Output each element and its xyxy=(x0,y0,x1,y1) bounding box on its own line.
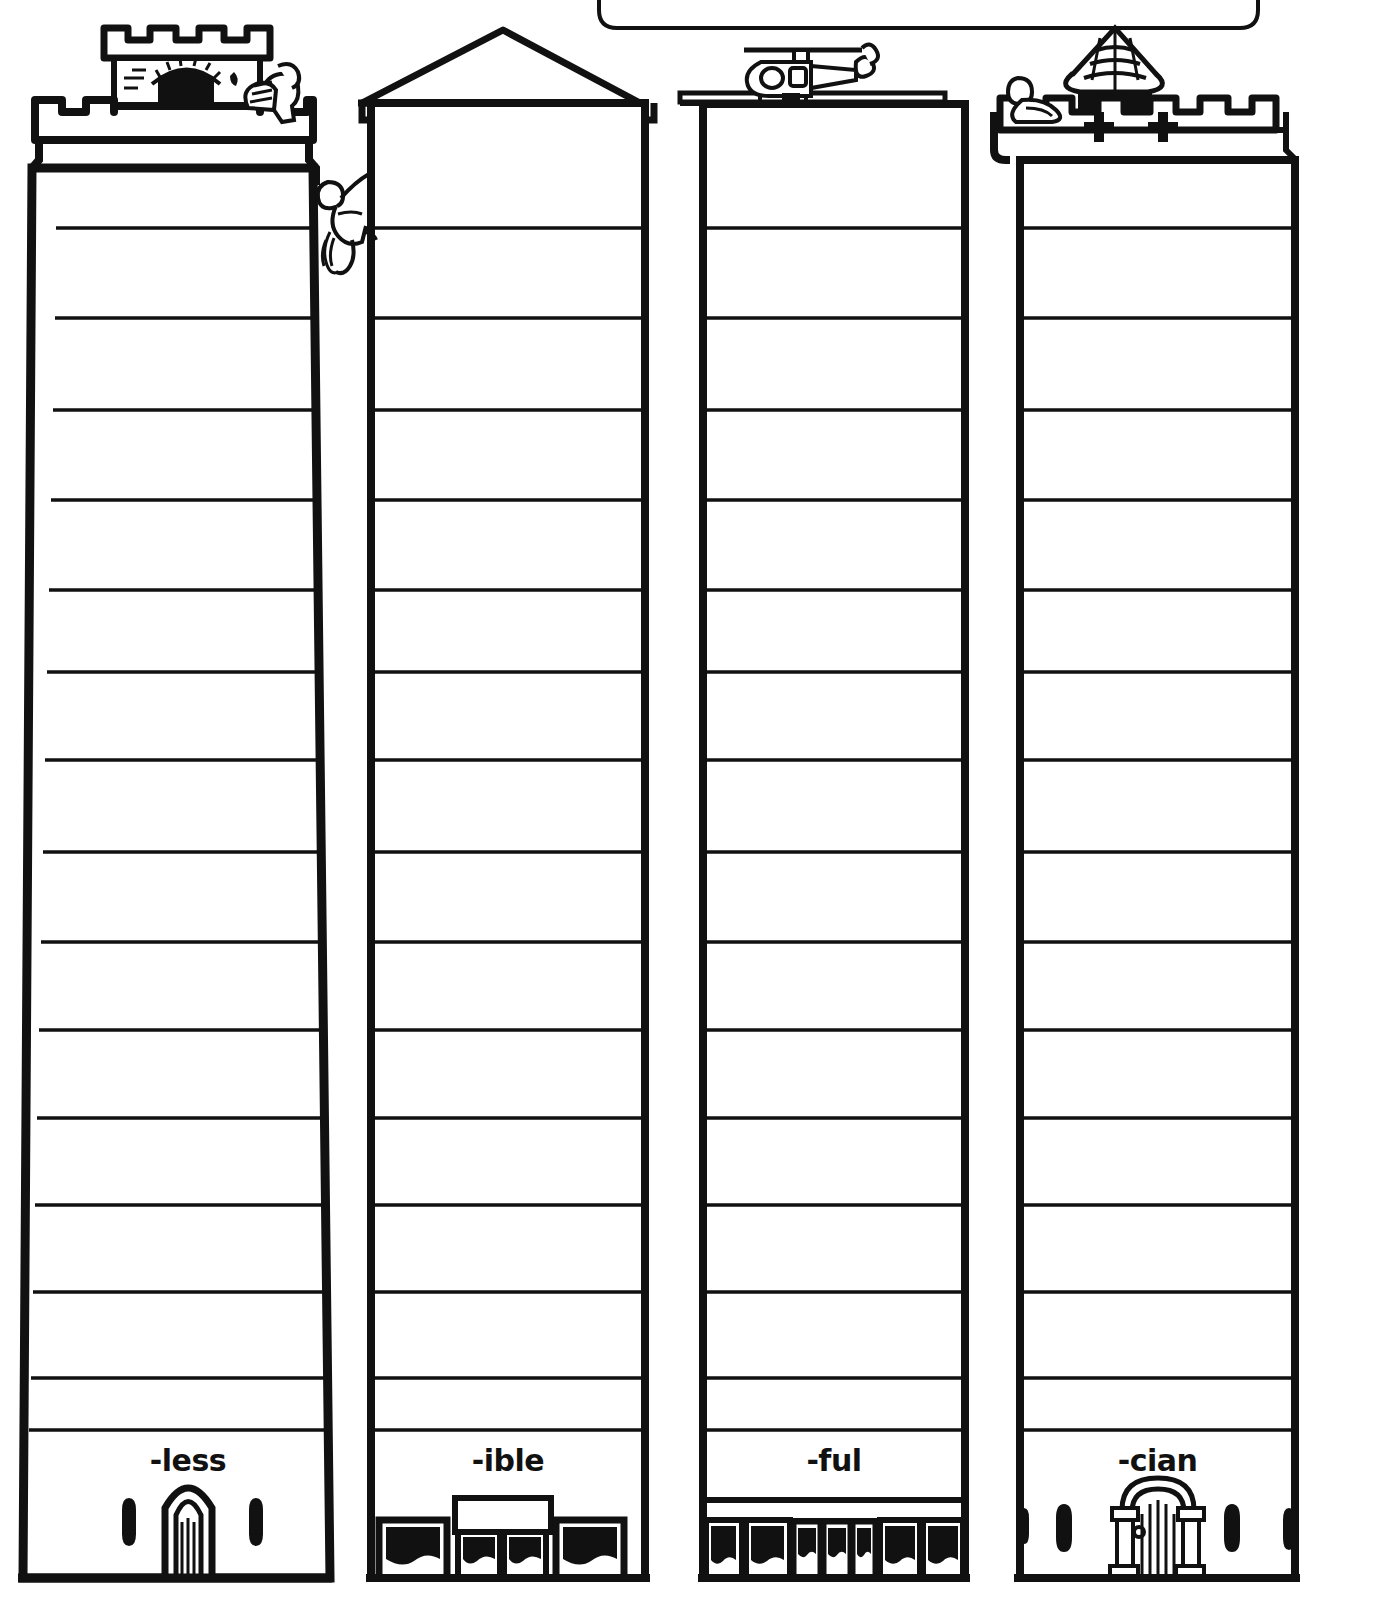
pitched-roof-icon xyxy=(358,30,644,103)
tower-less[interactable] xyxy=(18,28,332,1578)
tower-ible-body xyxy=(371,103,645,1578)
tower-label-ful: -ful xyxy=(703,1443,965,1478)
worksheet-canvas: -less -ible -ful -cian xyxy=(0,0,1373,1610)
tower-label-cian: -cian xyxy=(1020,1443,1295,1478)
top-callout-box xyxy=(599,0,1258,28)
gothic-arch-door-icon xyxy=(165,1488,212,1578)
tower-cian-body xyxy=(1020,160,1295,1578)
towers-illustration xyxy=(0,0,1373,1610)
tower-cian[interactable] xyxy=(994,28,1300,1578)
tower-less-body xyxy=(23,168,330,1578)
tower-ful[interactable] xyxy=(680,44,970,1578)
tower-ible[interactable] xyxy=(318,30,654,1578)
tower-label-ible: -ible xyxy=(371,1443,645,1478)
tower-label-less: -less xyxy=(63,1443,313,1478)
tower-ful-body xyxy=(703,104,965,1578)
romanesque-arch-door-icon xyxy=(1110,1478,1204,1578)
